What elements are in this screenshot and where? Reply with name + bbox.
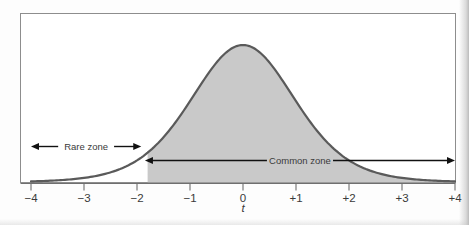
x-axis-tick-label: −2	[130, 192, 143, 204]
x-axis-title: t	[241, 202, 245, 214]
x-axis-tick-label: −4	[24, 192, 38, 204]
zone-label-rare-zone: Rare zone	[64, 141, 108, 152]
zone-label-common-zone: Common zone	[269, 155, 331, 166]
x-axis-tick-label: +2	[342, 192, 355, 204]
distribution-figure: −4−3−2−10+1+2+3+4 t Rare zoneCommon zone	[0, 0, 469, 225]
x-axis-tick-label: −1	[183, 192, 196, 204]
t-distribution-chart: −4−3−2−10+1+2+3+4 t Rare zoneCommon zone	[0, 0, 469, 225]
x-axis-tick-label: −3	[77, 192, 90, 204]
x-axis-tick-label: +3	[395, 192, 408, 204]
x-axis-tick-label: +4	[448, 192, 462, 204]
x-axis-tick-label: +1	[289, 192, 302, 204]
x-axis-ticks	[31, 184, 455, 191]
